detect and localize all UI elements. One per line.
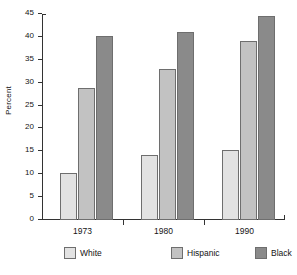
legend-item-white: White [64, 247, 102, 259]
legend-label-white: White [80, 248, 102, 258]
x-axis-label-1980: 1980 [123, 226, 204, 236]
legend-item-black: Black [255, 247, 292, 259]
y-axis-tick-label: 25 [25, 100, 34, 109]
bar-black-1980 [177, 32, 194, 220]
chart-legend: WhiteHispanicBlack [42, 247, 285, 265]
bars-layer [42, 14, 285, 220]
y-axis-tick-label: 0 [30, 214, 34, 223]
x-axis-tick [204, 220, 205, 225]
legend-swatch-white [64, 247, 76, 259]
bar-hispanic-1973 [78, 88, 95, 220]
legend-swatch-black [255, 247, 267, 259]
legend-item-hispanic: Hispanic [171, 247, 220, 259]
legend-label-hispanic: Hispanic [187, 248, 220, 258]
bar-chart: Percent 051015202530354045 197319801990 … [0, 0, 297, 275]
y-axis-tick-label: 40 [25, 31, 34, 40]
y-axis-tick-label: 20 [25, 122, 34, 131]
x-axis-label-1990: 1990 [204, 226, 285, 236]
bar-white-1973 [60, 173, 77, 220]
bar-hispanic-1980 [159, 69, 176, 220]
x-axis-tick [123, 220, 124, 225]
y-axis-tick-label: 45 [25, 8, 34, 17]
bar-hispanic-1990 [240, 41, 257, 220]
y-axis-tick-label: 5 [30, 191, 34, 200]
y-axis-tick-label: 30 [25, 77, 34, 86]
legend-label-black: Black [271, 248, 292, 258]
y-axis-tick-label: 15 [25, 145, 34, 154]
plot-area: 051015202530354045 [42, 14, 285, 220]
y-axis-tick-label: 10 [25, 168, 34, 177]
y-axis-title: Percent [4, 69, 13, 133]
bar-white-1980 [141, 155, 158, 220]
bar-black-1973 [96, 36, 113, 220]
legend-swatch-hispanic [171, 247, 183, 259]
x-axis-label-1973: 1973 [42, 226, 123, 236]
bar-white-1990 [222, 150, 239, 220]
y-axis-tick-label: 35 [25, 54, 34, 63]
bar-black-1990 [258, 16, 275, 220]
